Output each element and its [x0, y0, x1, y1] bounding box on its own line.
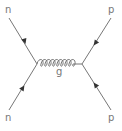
particle-label-bottom-left: n — [5, 113, 11, 123]
particle-label-top-left: n — [5, 5, 11, 15]
fermion-line-top-right — [82, 18, 111, 64]
particle-label-top-right: p — [108, 5, 114, 15]
propagator-label: g — [56, 67, 62, 77]
fermion-line-bottom-left — [9, 64, 37, 110]
feynman-diagram: n n p p g — [0, 0, 122, 131]
particle-label-bottom-right: p — [108, 113, 114, 123]
fermion-line-top-left — [9, 18, 37, 64]
fermion-line-bottom-right — [82, 64, 111, 110]
arrow-icon — [19, 86, 24, 92]
